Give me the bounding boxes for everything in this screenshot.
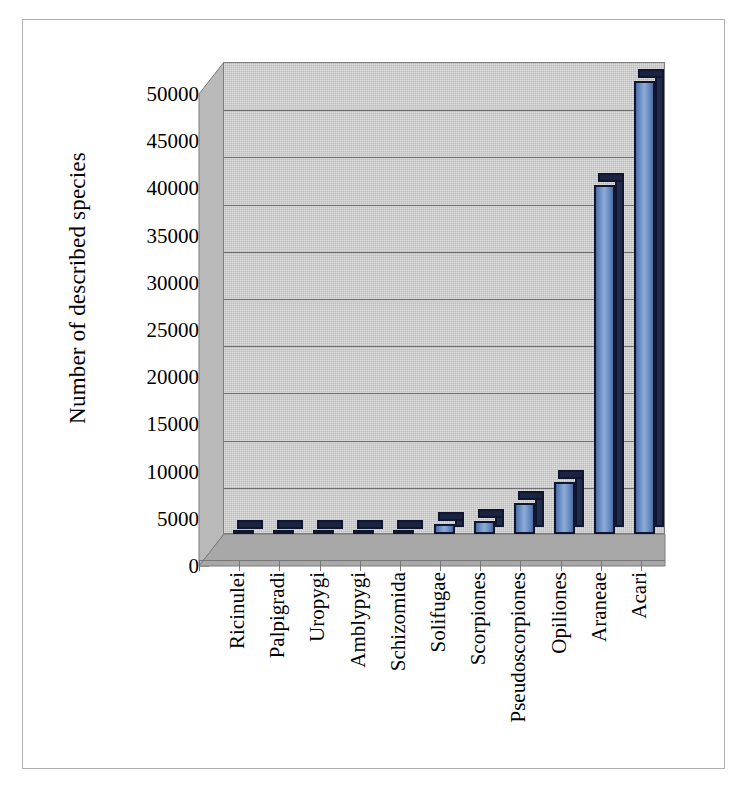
x-axis-ticks [199, 560, 665, 572]
y-tick-label: 5000 [103, 508, 199, 529]
bar-side-face [655, 74, 664, 527]
x-tick-mark [320, 560, 321, 571]
y-tick-label: 0 [103, 556, 199, 577]
bar-front-face [474, 521, 495, 534]
bar-top-face [357, 520, 383, 529]
bar-front-face [393, 530, 414, 534]
x-category-label-ricinulei: Ricinulei [227, 572, 248, 649]
x-tick-mark [360, 560, 361, 571]
bar-opiliones[interactable] [554, 472, 575, 534]
bar-top-face [518, 491, 544, 500]
x-tick-mark [480, 560, 481, 571]
bar-ricinulei[interactable] [233, 522, 254, 534]
x-tick-mark [400, 560, 401, 571]
bar-uropygi[interactable] [313, 522, 334, 534]
bar-top-face [397, 520, 423, 529]
bar-top-face [317, 520, 343, 529]
bar-top-face [237, 520, 263, 529]
bar-side-face [575, 475, 584, 527]
bar-acari[interactable] [634, 71, 655, 534]
bar-top-face [438, 512, 464, 521]
x-category-label-amblypygi: Amblypygi [348, 572, 369, 668]
bar-front-face [554, 482, 575, 534]
bar-front-face [514, 503, 535, 534]
x-tick-mark [601, 560, 602, 571]
y-tick-label: 50000 [103, 84, 199, 105]
y-tick-label: 40000 [103, 178, 199, 199]
y-tick-label: 20000 [103, 367, 199, 388]
x-category-label-schizomida: Schizomida [388, 572, 409, 671]
bar-top-face [598, 173, 624, 182]
bar-amblypygi[interactable] [353, 522, 374, 534]
x-tick-mark [561, 560, 562, 571]
x-category-label-scorpiones: Scorpiones [468, 572, 489, 665]
bar-side-face [615, 178, 624, 527]
bar-pseudoscorpiones[interactable] [514, 493, 535, 534]
bar-scorpiones[interactable] [474, 511, 495, 534]
bar-front-face [313, 530, 334, 534]
x-tick-mark [279, 560, 280, 571]
bar-front-face [594, 185, 615, 534]
y-tick-label: 45000 [103, 131, 199, 152]
y-tick-label: 30000 [103, 272, 199, 293]
y-tick-label: 15000 [103, 414, 199, 435]
x-tick-mark [239, 560, 240, 571]
bar-schizomida[interactable] [393, 522, 414, 534]
bar-palpigradi[interactable] [273, 522, 294, 534]
x-tick-mark [641, 560, 642, 571]
x-category-label-solifugae: Solifugae [428, 572, 449, 652]
bar-front-face [634, 81, 655, 534]
bar-front-face [233, 530, 254, 534]
x-axis-category-labels: RicinuleiPalpigradiUropygiAmblypygiSchiz… [199, 572, 665, 782]
bars-layer [223, 62, 665, 566]
y-axis-tick-labels: 0500010000150002000025000300003500040000… [113, 63, 209, 553]
bar-solifugae[interactable] [434, 514, 455, 534]
x-axis-line [199, 560, 665, 561]
plot-area [199, 62, 665, 566]
bar-top-face [478, 509, 504, 518]
y-tick-label: 10000 [103, 461, 199, 482]
x-tick-mark [440, 560, 441, 571]
y-tick-label: 25000 [103, 320, 199, 341]
bar-front-face [353, 530, 374, 534]
x-category-label-pseudoscorpiones: Pseudoscorpiones [508, 572, 529, 723]
bar-araneae[interactable] [594, 175, 615, 534]
x-category-label-opiliones: Opiliones [549, 572, 570, 654]
x-category-label-palpigradi: Palpigradi [267, 572, 288, 658]
bar-top-face [558, 470, 584, 479]
bar-front-face [273, 530, 294, 534]
bar-top-face [638, 69, 664, 78]
x-category-label-araneae: Araneae [589, 572, 610, 642]
x-category-label-uropygi: Uropygi [307, 572, 328, 642]
y-axis-title: Number of described species [65, 138, 91, 438]
x-tick-mark [199, 560, 200, 571]
x-tick-mark [520, 560, 521, 571]
plot-side-wall [199, 62, 224, 566]
bar-front-face [434, 524, 455, 534]
bar-side-face [535, 496, 544, 527]
bar-top-face [277, 520, 303, 529]
y-tick-label: 35000 [103, 225, 199, 246]
figure-frame: Number of described species 050001000015… [22, 19, 725, 769]
x-category-label-acari: Acari [629, 572, 650, 619]
